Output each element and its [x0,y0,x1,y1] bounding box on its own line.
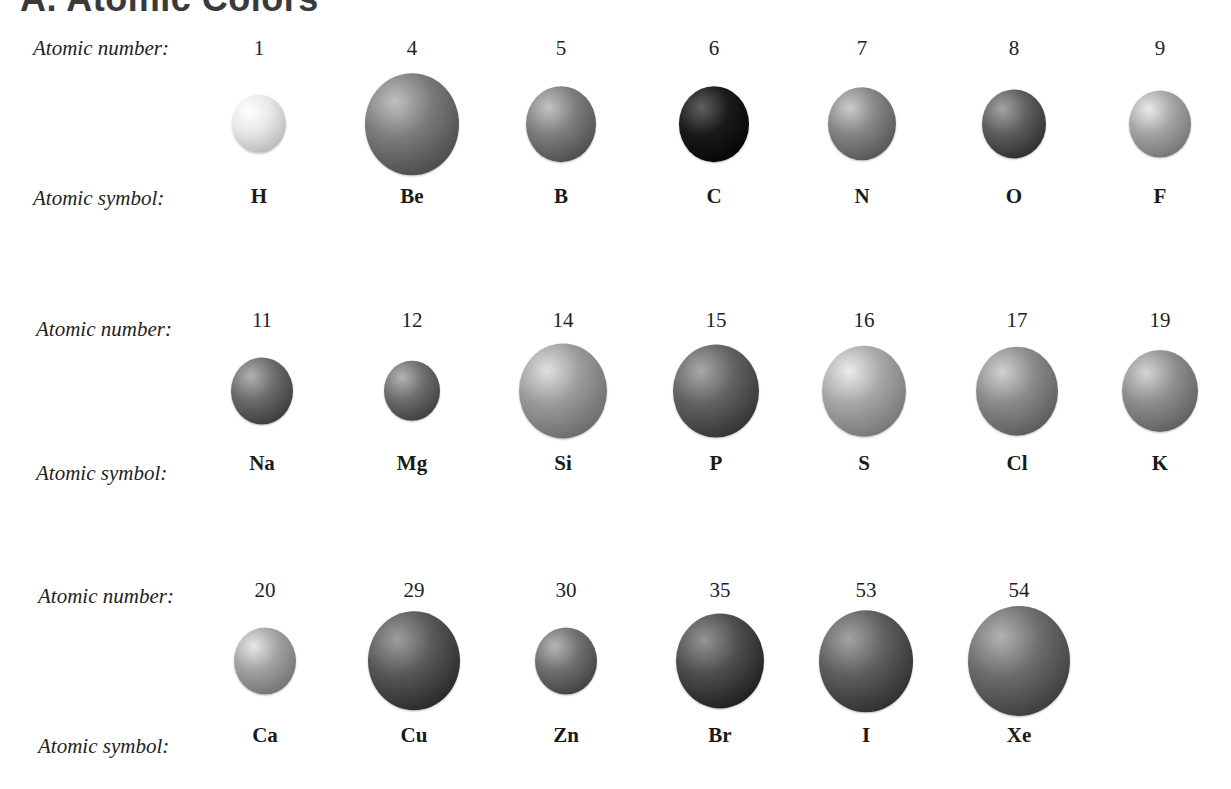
atomic-number: 12 [402,308,423,333]
atomic-symbol: Br [708,723,731,748]
atom-sphere-p [673,345,759,438]
atomic-number-label: Atomic number: [38,584,174,609]
atom-sphere-br [676,613,764,708]
atomic-number: 1 [254,36,265,61]
atom-sphere-i [819,610,913,712]
atom-sphere-cl [976,347,1058,436]
atomic-number: 15 [706,308,727,333]
atomic-number: 7 [857,36,868,61]
atomic-symbol: O [1006,184,1022,209]
atomic-symbol: N [854,184,869,209]
atom-sphere-ca [234,628,296,695]
atom-sphere-o [982,89,1046,158]
atomic-symbol: C [706,184,721,209]
atomic-symbol: Na [249,451,275,476]
atomic-symbol: P [710,451,723,476]
atomic-symbol: B [554,184,568,209]
atomic-number: 53 [856,578,877,603]
atomic-number: 9 [1155,36,1166,61]
atomic-number: 16 [854,308,875,333]
atomic-number-label: Atomic number: [33,36,169,61]
atomic-symbol: Cl [1007,451,1028,476]
atomic-symbol: Si [554,451,572,476]
atom-sphere-zn [535,628,597,695]
atomic-number: 5 [556,36,567,61]
atomic-symbol: Zn [553,723,579,748]
atom-sphere-mg [384,361,440,421]
atomic-number: 14 [553,308,574,333]
atomic-number: 54 [1009,578,1030,603]
atomic-symbol-label: Atomic symbol: [36,461,167,486]
atomic-number: 29 [404,578,425,603]
atomic-number-label: Atomic number: [36,317,172,342]
atom-sphere-xe [968,606,1070,716]
atom-sphere-f [1129,91,1191,158]
atom-sphere-be [365,73,459,175]
atomic-number: 17 [1007,308,1028,333]
atomic-symbol-label: Atomic symbol: [33,186,164,211]
atomic-number: 8 [1009,36,1020,61]
atom-sphere-b [526,86,596,162]
atomic-symbol-label: Atomic symbol: [38,734,169,759]
page-title: A. Atomic Colors [20,0,319,20]
atom-sphere-na [231,358,293,425]
atomic-symbol: H [251,184,267,209]
atom-sphere-h [232,95,286,153]
atomic-number: 20 [255,578,276,603]
atom-sphere-k [1122,350,1198,432]
atomic-number: 19 [1150,308,1171,333]
atomic-symbol: S [858,451,870,476]
atom-sphere-c [679,86,749,162]
atomic-symbol: Xe [1007,723,1032,748]
atom-sphere-s [822,346,906,437]
atomic-symbol: K [1152,451,1168,476]
atomic-symbol: Be [400,184,423,209]
atomic-number: 4 [407,36,418,61]
atomic-number: 30 [556,578,577,603]
atomic-symbol: Ca [252,723,278,748]
atomic-symbol: Cu [401,723,428,748]
atom-sphere-si [519,343,607,438]
atomic-number: 11 [252,308,272,333]
atomic-symbol: F [1154,184,1167,209]
atom-sphere-n [828,87,896,160]
atomic-number: 35 [710,578,731,603]
atomic-symbol: I [862,723,870,748]
atom-sphere-cu [368,611,460,710]
atomic-number: 6 [709,36,720,61]
atomic-symbol: Mg [397,451,427,476]
